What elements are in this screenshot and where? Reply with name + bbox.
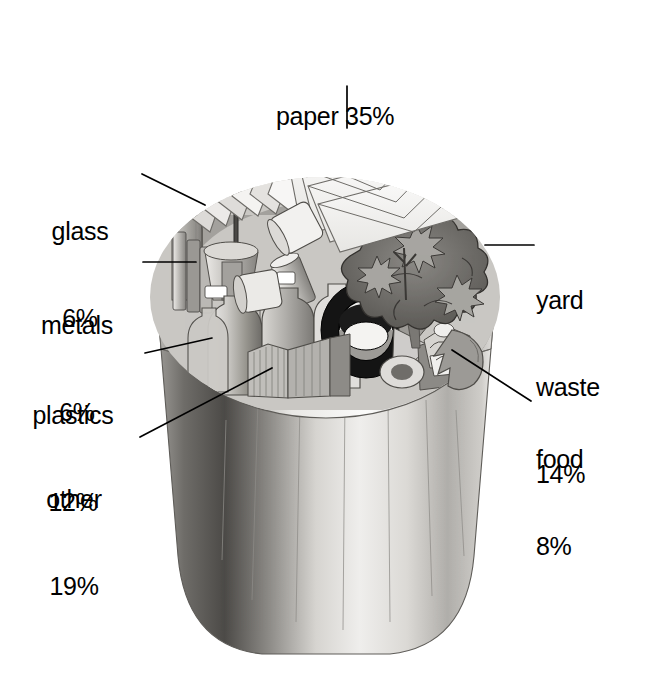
label-other-name: other — [16, 485, 132, 514]
label-food-name: food — [536, 445, 640, 474]
label-plastics-name: plastics — [10, 401, 136, 430]
label-yard-waste-name1: yard — [536, 286, 646, 315]
label-food-pct: 8% — [536, 532, 640, 561]
label-other: other 19% — [16, 427, 132, 659]
label-metals-name: metals — [18, 311, 136, 340]
waste-composition-figure: paper 35% glass 6% metals 6% plastics 12… — [0, 0, 649, 686]
label-paper-text: paper 35% — [276, 102, 394, 131]
label-glass-name: glass — [24, 217, 136, 246]
label-paper: paper 35% — [276, 44, 394, 189]
leader-glass — [142, 174, 205, 205]
label-food: food 8% — [536, 387, 640, 619]
label-other-pct: 19% — [16, 572, 132, 601]
